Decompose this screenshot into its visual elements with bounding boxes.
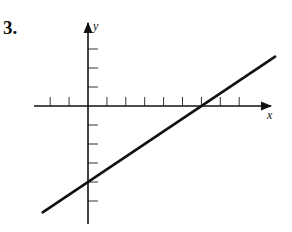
x-axis-label: x bbox=[266, 108, 273, 122]
plotted-line bbox=[43, 57, 275, 213]
y-axis-label: y bbox=[92, 19, 99, 33]
graph: x y bbox=[0, 0, 292, 232]
